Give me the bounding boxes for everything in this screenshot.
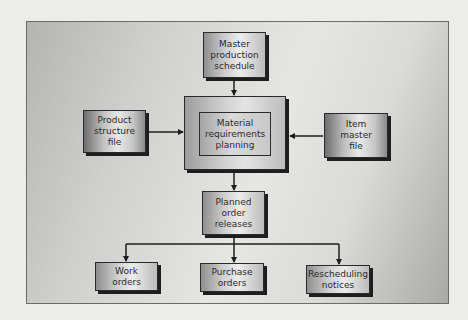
node-work-orders: Work orders [95, 262, 158, 291]
node-rescheduling-notices: Rescheduling notices [306, 265, 370, 294]
node-mrp-container: Material requirements planning [184, 96, 286, 170]
node-product-structure-file: Product structure file [83, 110, 146, 153]
node-material-requirements-planning: Material requirements planning [199, 112, 271, 156]
node-master-production-schedule: Master production schedule [203, 32, 266, 78]
node-purchase-orders: Purchase orders [200, 263, 264, 292]
node-planned-order-releases: Planned order releases [202, 191, 265, 235]
node-item-master-file: Item master file [324, 113, 388, 158]
